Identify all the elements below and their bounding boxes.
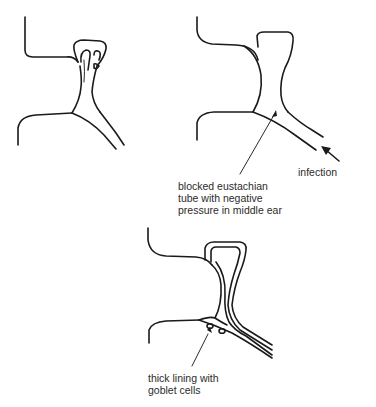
pointer-arrowhead-icon — [272, 110, 277, 117]
infection-label: infection — [298, 166, 337, 178]
goblet-cell-icon — [219, 329, 225, 334]
panel-blocked — [197, 17, 339, 174]
thick-lining-label: thick lining with goblet cells — [148, 372, 219, 396]
panel-normal — [18, 17, 124, 149]
blocked-eustachian-tube-label: blocked eustachian tube with negative pr… — [178, 180, 282, 216]
ear-diagram-figure: infection blocked eustachian tube with n… — [0, 0, 376, 407]
panel-thick-lining — [148, 228, 272, 366]
